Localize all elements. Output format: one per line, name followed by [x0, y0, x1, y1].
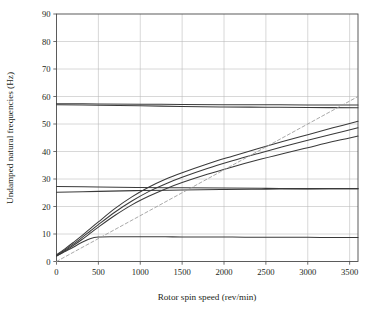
y-tick-label: 80 [42, 37, 51, 47]
chart-canvas: 0500100015002000250030003500 01020304050… [0, 0, 375, 317]
y-tick-label: 60 [42, 92, 51, 102]
y-tick-label: 10 [42, 229, 51, 239]
x-tick-label: 3500 [341, 267, 358, 277]
x-tick-label: 500 [92, 267, 105, 277]
x-tick-label: 2000 [215, 267, 232, 277]
y-tick-label: 90 [42, 9, 51, 19]
y-tick-label: 30 [42, 174, 51, 184]
x-tick-label: 1000 [132, 267, 149, 277]
y-tick-label: 40 [42, 147, 51, 157]
y-tick-label: 70 [42, 64, 51, 74]
campbell-diagram-figure: 0500100015002000250030003500 01020304050… [0, 0, 375, 317]
x-tick-label: 0 [54, 267, 58, 277]
x-tick-label: 1500 [174, 267, 191, 277]
y-tick-label: 0 [46, 257, 50, 267]
y-axis-title: Undamped natural frequencies (Hz) [5, 72, 15, 204]
x-axis-title: Rotor spin speed (rev/min) [158, 292, 257, 302]
y-tick-label: 50 [42, 119, 51, 129]
x-tick-label: 2500 [257, 267, 274, 277]
x-tick-label: 3000 [299, 267, 316, 277]
y-tick-label: 20 [42, 202, 51, 212]
